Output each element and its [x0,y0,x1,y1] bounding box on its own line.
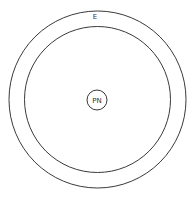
outer-ring-label: E [93,13,97,21]
diagram-canvas: E PN [0,0,195,204]
nucleus-label: PN [92,97,101,105]
